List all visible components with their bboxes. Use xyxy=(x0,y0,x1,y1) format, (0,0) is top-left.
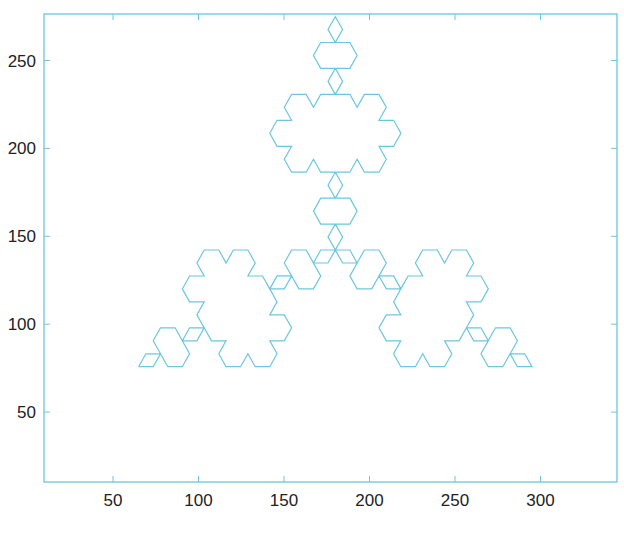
plot-area-frame xyxy=(44,14,617,482)
y-tick-label: 150 xyxy=(8,227,36,246)
x-tick-label: 150 xyxy=(270,491,298,510)
koch-snowflake-curve xyxy=(139,17,532,367)
x-axis-ticks xyxy=(113,14,541,482)
x-tick-label: 100 xyxy=(184,491,212,510)
x-tick-label: 50 xyxy=(104,491,123,510)
y-tick-label: 50 xyxy=(17,403,36,422)
x-tick-label: 250 xyxy=(441,491,469,510)
y-axis-tick-labels: 50100150200250 xyxy=(8,52,36,423)
x-tick-label: 300 xyxy=(526,491,554,510)
y-axis-ticks xyxy=(44,61,617,413)
x-tick-label: 200 xyxy=(355,491,383,510)
y-tick-label: 100 xyxy=(8,315,36,334)
y-tick-label: 200 xyxy=(8,139,36,158)
x-axis-tick-labels: 50100150200250300 xyxy=(104,491,555,510)
y-tick-label: 250 xyxy=(8,52,36,71)
koch-snowflake-chart: 50100150200250300 50100150200250 xyxy=(0,0,624,534)
